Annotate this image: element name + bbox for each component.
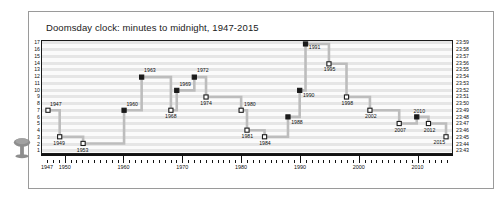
x-tick-minor xyxy=(388,160,389,164)
chart-title: Doomsday clock: minutes to midnight, 194… xyxy=(46,22,259,33)
data-point-label: 1990 xyxy=(303,93,315,98)
data-point-label: 2002 xyxy=(365,114,377,119)
x-tick-minor xyxy=(47,160,48,164)
x-tick-minor xyxy=(53,160,54,164)
x-tick-minor xyxy=(188,160,189,164)
x-tick-major xyxy=(182,156,183,163)
x-tick-minor xyxy=(147,160,148,164)
x-tick-minor xyxy=(82,160,83,164)
y-tick-label: 4 xyxy=(37,128,40,133)
clock-time-label: 23:56 xyxy=(456,61,469,66)
x-tick-minor xyxy=(429,160,430,164)
clock-time-label: 23:55 xyxy=(456,67,469,72)
x-tick-major xyxy=(123,156,124,163)
clock-time-label: 23:46 xyxy=(456,128,469,133)
x-tick-minor xyxy=(341,160,342,164)
data-point-label: 2007 xyxy=(394,128,406,133)
x-tick-minor xyxy=(329,160,330,164)
data-point-label: 1968 xyxy=(165,114,177,119)
x-tick-major xyxy=(65,156,66,163)
x-tick-label: 1947 xyxy=(41,164,53,170)
data-point-label: 1960 xyxy=(126,102,138,107)
clock-time-label: 23:59 xyxy=(456,40,469,45)
clock-time-label: 23:53 xyxy=(456,81,469,86)
x-tick-minor xyxy=(106,160,107,164)
data-point-label: 1988 xyxy=(291,120,303,125)
y-tick-label: 10 xyxy=(34,88,40,93)
x-tick-label: 1950 xyxy=(59,164,71,170)
clock-time-label: 23:52 xyxy=(456,88,469,93)
x-tick-minor xyxy=(276,160,277,164)
x-tick-minor xyxy=(406,160,407,164)
x-tick-minor xyxy=(335,160,336,164)
x-tick-minor xyxy=(412,160,413,164)
x-tick-minor xyxy=(394,160,395,164)
x-tick-minor xyxy=(294,160,295,164)
x-tick-minor xyxy=(353,160,354,164)
x-tick-minor xyxy=(253,160,254,164)
y-tick-label: 15 xyxy=(34,54,40,59)
clock-time-label: 23:44 xyxy=(456,142,469,147)
x-tick-minor xyxy=(282,160,283,164)
y-axis-minutes: 1234567891011121314151617 xyxy=(22,38,40,156)
clock-time-label: 23:48 xyxy=(456,115,469,120)
data-point-label: 1969 xyxy=(179,82,191,87)
data-point-label: 1953 xyxy=(77,148,89,153)
x-tick-minor xyxy=(135,160,136,164)
x-tick-minor xyxy=(400,160,401,164)
x-tick-minor xyxy=(229,160,230,164)
x-tick-minor xyxy=(176,160,177,164)
clock-time-label: 23:49 xyxy=(456,108,469,113)
x-tick-minor xyxy=(153,160,154,164)
x-tick-minor xyxy=(88,160,89,164)
x-tick-minor xyxy=(223,160,224,164)
y-tick-label: 3 xyxy=(37,135,40,140)
data-point-label: 1947 xyxy=(50,102,62,107)
data-point-label: 1981 xyxy=(242,134,254,139)
data-point-labels: 1947194919531960196319681969197219741980… xyxy=(41,40,453,154)
y-tick-label: 9 xyxy=(37,94,40,99)
x-tick-label: 1970 xyxy=(176,164,188,170)
x-tick-minor xyxy=(94,160,95,164)
data-point-label: 1949 xyxy=(53,141,65,146)
clock-time-label: 23:47 xyxy=(456,121,469,126)
y-tick-label: 12 xyxy=(34,74,40,79)
x-tick-minor xyxy=(306,160,307,164)
x-tick-minor xyxy=(365,160,366,164)
doomsday-clock-figure: Doomsday clock: minutes to midnight, 194… xyxy=(0,0,501,200)
x-tick-minor xyxy=(247,160,248,164)
x-tick-minor xyxy=(259,160,260,164)
y-tick-label: 2 xyxy=(37,142,40,147)
x-tick-minor xyxy=(235,160,236,164)
x-tick-minor xyxy=(323,160,324,164)
x-tick-label: 1980 xyxy=(235,164,247,170)
x-tick-minor xyxy=(112,160,113,164)
x-tick-minor xyxy=(382,160,383,164)
x-tick-minor xyxy=(59,160,60,164)
x-tick-minor xyxy=(218,160,219,164)
x-tick-minor xyxy=(288,160,289,164)
x-tick-minor xyxy=(129,160,130,164)
x-tick-minor xyxy=(435,160,436,164)
data-point-label: 1974 xyxy=(200,101,212,106)
y-tick-label: 16 xyxy=(34,47,40,52)
x-tick-label: 1960 xyxy=(117,164,129,170)
x-tick-major xyxy=(359,156,360,163)
data-point-label: 1980 xyxy=(244,102,256,107)
data-point-label: 1963 xyxy=(144,68,156,73)
data-point-label: 1991 xyxy=(309,45,321,50)
x-tick-label: 2010 xyxy=(412,164,424,170)
x-tick-minor xyxy=(100,160,101,164)
y-tick-label: 11 xyxy=(35,81,40,86)
x-tick-minor xyxy=(76,160,77,164)
y-tick-label: 6 xyxy=(37,115,40,120)
x-tick-minor xyxy=(71,160,72,164)
data-point-label: 1995 xyxy=(324,67,336,72)
clock-time-label: 23:43 xyxy=(456,148,469,153)
x-tick-minor xyxy=(318,160,319,164)
x-tick-minor xyxy=(376,160,377,164)
y-tick-label: 13 xyxy=(34,67,40,72)
clock-time-label: 23:57 xyxy=(456,54,469,59)
x-tick-minor xyxy=(271,160,272,164)
x-tick-minor xyxy=(206,160,207,164)
